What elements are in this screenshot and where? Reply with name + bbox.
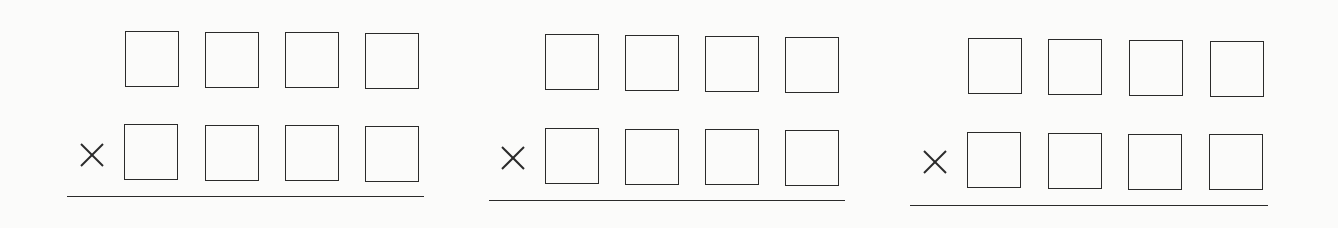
multiplication-problem-3 [0, 0, 1338, 228]
digit-box-bottom-2[interactable] [1048, 133, 1102, 189]
digit-box-top-2[interactable] [1048, 39, 1102, 95]
digit-box-bottom-1[interactable] [967, 132, 1021, 188]
multiply-sign-icon [922, 149, 948, 175]
digit-box-bottom-4[interactable] [1209, 134, 1263, 190]
digit-box-top-3[interactable] [1129, 40, 1183, 96]
digit-box-bottom-3[interactable] [1128, 134, 1182, 190]
answer-line [910, 205, 1268, 206]
digit-box-top-4[interactable] [1210, 41, 1264, 97]
digit-box-top-1[interactable] [968, 38, 1022, 94]
